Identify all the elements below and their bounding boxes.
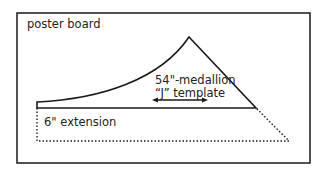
poster-board-label: poster board bbox=[27, 18, 101, 31]
extension-label: 6" extension bbox=[44, 116, 116, 129]
template-label-line2: “J” template bbox=[155, 87, 236, 100]
template-label: 54"-medallion “J” template bbox=[155, 74, 236, 100]
